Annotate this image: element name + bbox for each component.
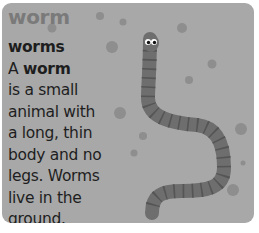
definition-line: a long, thin [8, 123, 138, 145]
bold-term: worm [23, 60, 71, 78]
definition-block: worms A worm is a small animal with a lo… [8, 37, 138, 223]
definition-line: is a small [8, 80, 138, 102]
definition-line: animal with [8, 102, 138, 124]
plural-form: worms [8, 37, 138, 59]
definition-line: body and no [8, 145, 138, 167]
dictionary-card: worm worms A worm is a small animal with… [2, 3, 254, 223]
definition-line: live in the [8, 188, 138, 210]
definition-line: legs. Worms [8, 166, 138, 188]
headword: worm [8, 6, 70, 28]
definition-line: ground. [8, 209, 138, 223]
definition-line: A worm [8, 59, 138, 81]
